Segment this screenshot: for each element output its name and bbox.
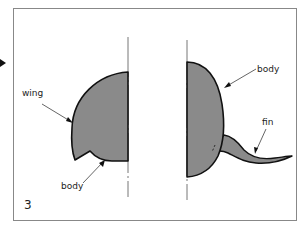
left-body-shape [72,72,128,161]
leader-fin [256,129,266,151]
label-wing: wing [22,88,43,98]
panel-frame [14,9,297,221]
leader-body-left [83,162,103,183]
panel-number: 3 [24,198,32,212]
arrow-right-marker-icon [0,59,6,67]
arrowhead-wing-icon [66,117,73,123]
leader-body-right [227,69,256,86]
label-body-left: body [61,181,84,191]
label-fin: fin [262,117,273,127]
label-body-right: body [257,64,280,74]
leader-wing [42,104,70,121]
arrowhead-fin-icon [254,147,258,154]
right-body-shape [187,62,224,177]
arrowhead-body-right-icon [224,82,231,88]
arrowhead-body-left-icon [99,160,105,167]
diagram-canvas: wing body body fin 3 [0,0,306,231]
